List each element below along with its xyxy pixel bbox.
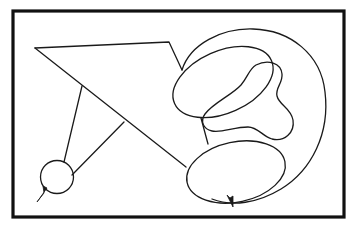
line-drawing-canvas (0, 0, 357, 232)
figure-root (0, 0, 357, 232)
canvas-background (0, 0, 357, 232)
